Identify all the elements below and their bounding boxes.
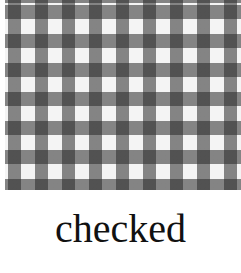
caption-word: checked [0,205,241,252]
checked-fabric-image [5,0,241,190]
